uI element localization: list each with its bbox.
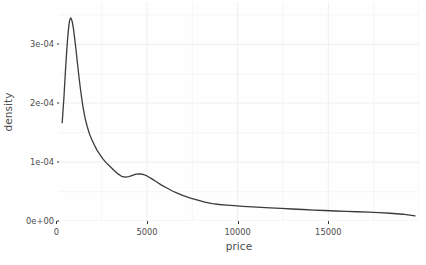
y-axis-tick-labels: 0e+001e-042e-043e-04 (12, 0, 54, 224)
x-axis-title-label: price (226, 240, 253, 252)
x-axis-tick-label: 10000 (224, 227, 250, 237)
y-axis-tick-label: 2e-04 (12, 98, 54, 108)
series-path (62, 18, 415, 216)
x-axis-tick-marks (0, 221, 426, 225)
y-axis-tick-label: 3e-04 (12, 39, 54, 49)
y-axis-tick-label: 1e-04 (12, 157, 54, 167)
x-axis-tick-mark (238, 221, 239, 224)
density-curve-series (59, 2, 419, 221)
x-axis-tick-labels: 050001000015000 (0, 227, 426, 241)
x-axis-tick-mark (56, 221, 57, 224)
density-plot: density 0e+001e-042e-043e-04 05000100001… (0, 0, 426, 265)
x-axis-tick-label: 0 (54, 227, 59, 237)
x-axis-title: price (59, 240, 419, 252)
plot-panel (59, 2, 419, 221)
x-axis-tick-label: 15000 (315, 227, 341, 237)
x-axis-tick-mark (147, 221, 148, 224)
x-axis-tick-label: 5000 (136, 227, 157, 237)
x-axis-tick-mark (328, 221, 329, 224)
